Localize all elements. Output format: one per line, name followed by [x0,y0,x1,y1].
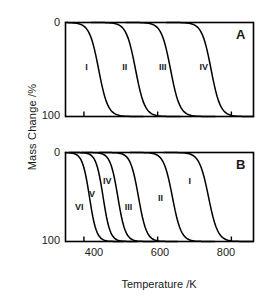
curve-label-II: II [158,193,163,203]
curve-label-IV: IV [200,62,209,72]
curve-label-III: III [125,202,133,212]
curve-IV [167,23,254,117]
curve-label-I: I [189,176,192,186]
curve-label-I: I [85,62,88,72]
curve-V [69,153,137,242]
curve-label-VI: VI [75,202,84,212]
curve-label-IV: IV [103,176,112,186]
curve-I [164,153,253,242]
curve-label-V: V [89,189,95,199]
plot-canvas [0,0,271,301]
curve-label-II: II [122,62,127,72]
curve-label-III: III [159,62,167,72]
curve-II [130,153,214,242]
curve-I [66,23,144,117]
tga-figure: Mass Change /% Temperature /K 0 100 0 10… [0,0,271,301]
curve-II [91,23,180,117]
